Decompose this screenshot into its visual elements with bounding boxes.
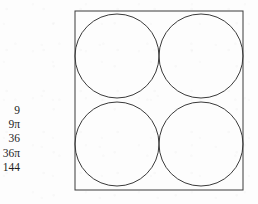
bottom-left-circle [75,102,159,186]
answer-choice[interactable]: 36 [0,131,20,145]
bounding-square [75,11,243,190]
question-figure-page: 9 9π 36 36π 144 [0,0,258,204]
bottom-right-circle [159,102,243,186]
answer-choice[interactable]: 144 [0,160,20,174]
answer-choice[interactable]: 9 [0,103,20,117]
top-right-circle [159,14,243,98]
answer-choice[interactable]: 36π [0,146,20,160]
top-left-circle [75,14,159,98]
geometry-diagram [74,10,244,191]
answer-choice-list: 9 9π 36 36π 144 [0,103,20,174]
answer-choice[interactable]: 9π [0,117,20,131]
